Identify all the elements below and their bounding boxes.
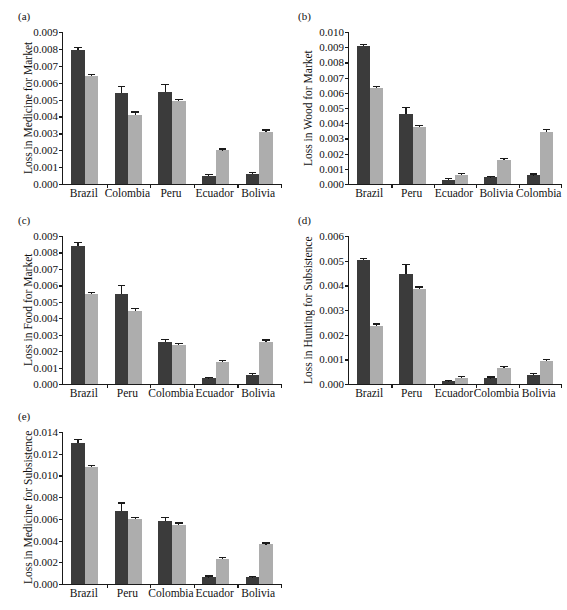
y-tick-label: 0.004: [300, 279, 348, 291]
x-tick-mark: [150, 184, 151, 188]
y-tick-mark: [59, 584, 63, 585]
axes-d: [348, 236, 561, 385]
error-bar-stem: [222, 558, 223, 559]
y-tick-label: 0.005: [14, 296, 62, 308]
y-tick-label: 0.009: [300, 41, 348, 53]
error-bar-stem: [503, 159, 504, 160]
x-tick-label-c-ecuador: Ecuador: [195, 387, 233, 399]
x-tick-label-c-bolivia: Bolivia: [241, 387, 275, 399]
y-tick-mark: [59, 236, 63, 237]
x-tick-label-b-ecuador: Ecuador: [435, 187, 473, 199]
error-bar-cap: [262, 339, 270, 340]
bar-c-bolivia-light: [259, 342, 273, 384]
x-tick-mark: [281, 584, 282, 588]
x-tick-mark: [237, 584, 238, 588]
y-tick-label: 0.001: [300, 353, 348, 365]
error-bar-cap: [360, 258, 367, 259]
error-bar-stem: [405, 108, 406, 114]
y-tick-label: 0.006: [14, 513, 62, 525]
y-tick-mark: [59, 49, 63, 50]
x-tick-label-e-colombia: Colombia: [148, 587, 193, 599]
error-bar-stem: [265, 544, 266, 545]
bar-a-ecuador-dark: [202, 176, 216, 184]
error-bar-stem: [363, 259, 364, 260]
error-bar-stem: [135, 518, 136, 520]
error-bar-cap: [543, 129, 550, 130]
bar-d-brazil-light: [370, 326, 383, 384]
x-tick-mark: [281, 184, 282, 188]
error-bar-stem: [77, 48, 78, 50]
x-tick-mark: [194, 584, 195, 588]
bar-d-brazil-dark: [357, 260, 370, 384]
y-tick-label: 0.006: [14, 279, 62, 291]
bar-e-peru-dark: [115, 511, 129, 584]
error-bar-stem: [363, 45, 364, 47]
y-tick-label: 0.002: [14, 556, 62, 568]
axes-c: [62, 236, 281, 385]
bar-a-peru-dark: [158, 92, 172, 184]
error-bar-stem: [252, 374, 253, 375]
error-bar-cap: [175, 99, 183, 100]
error-bar-cap: [118, 86, 126, 87]
y-tick-mark: [345, 78, 349, 79]
y-tick-mark: [59, 133, 63, 134]
y-tick-mark: [345, 384, 349, 385]
error-bar-cap: [161, 84, 169, 85]
error-bar-cap: [219, 557, 227, 558]
y-tick-label: 0.004: [14, 110, 62, 122]
error-bar-stem: [165, 518, 166, 521]
error-bar-stem: [533, 175, 534, 176]
bar-e-ecuador-light: [216, 559, 230, 584]
error-bar-stem: [252, 577, 253, 578]
x-tick-label-a-colombia: Colombia: [105, 187, 150, 199]
y-tick-mark: [345, 261, 349, 262]
x-tick-mark: [434, 184, 435, 188]
y-tick-mark: [59, 384, 63, 385]
y-tick-label: 0.003: [14, 127, 62, 139]
error-bar-stem: [533, 374, 534, 375]
plot-area-a: [62, 32, 280, 184]
x-tick-mark: [561, 384, 562, 388]
error-bar-cap: [74, 47, 82, 48]
x-tick-label-d-peru: Peru: [401, 387, 422, 399]
y-tick-mark: [345, 236, 349, 237]
bar-e-brazil-dark: [71, 443, 85, 584]
error-bar-stem: [91, 466, 92, 467]
error-bar-cap: [445, 380, 452, 381]
y-tick-label: 0.005: [300, 102, 348, 114]
x-tick-mark: [391, 384, 392, 388]
bar-e-ecuador-dark: [202, 577, 216, 584]
error-bar-stem: [376, 87, 377, 88]
error-bar-cap: [161, 339, 169, 340]
bar-e-peru-light: [128, 519, 142, 584]
error-bar-cap: [205, 377, 213, 378]
y-tick-label: 0.001: [14, 161, 62, 173]
bar-a-colombia-dark: [115, 93, 129, 184]
error-bar-stem: [405, 265, 406, 274]
y-tick-label: 0.002: [300, 148, 348, 160]
y-tick-label: 0.005: [14, 94, 62, 106]
error-bar-cap: [500, 366, 507, 367]
error-bar-stem: [376, 325, 377, 326]
error-bar-stem: [208, 577, 209, 578]
y-tick-label: 0.010: [14, 469, 62, 481]
y-tick-mark: [345, 169, 349, 170]
bar-b-colombia-light: [540, 132, 553, 184]
y-tick-mark: [59, 368, 63, 369]
y-tick-mark: [345, 108, 349, 109]
x-tick-label-e-peru: Peru: [117, 587, 138, 599]
y-tick-label: 0.003: [300, 132, 348, 144]
bar-e-bolivia-dark: [246, 577, 260, 584]
error-bar-cap: [175, 522, 183, 523]
y-tick-label: 0.000: [300, 378, 348, 390]
bar-a-colombia-light: [128, 115, 142, 184]
y-tick-mark: [345, 359, 349, 360]
error-bar-stem: [121, 87, 122, 93]
y-tick-label: 0.001: [14, 362, 62, 374]
y-tick-label: 0.009: [14, 26, 62, 38]
y-tick-label: 0.001: [300, 163, 348, 175]
y-tick-mark: [59, 285, 63, 286]
bar-d-peru-dark: [399, 274, 412, 384]
error-bar-cap: [88, 292, 96, 293]
x-tick-label-a-ecuador: Ecuador: [195, 187, 233, 199]
